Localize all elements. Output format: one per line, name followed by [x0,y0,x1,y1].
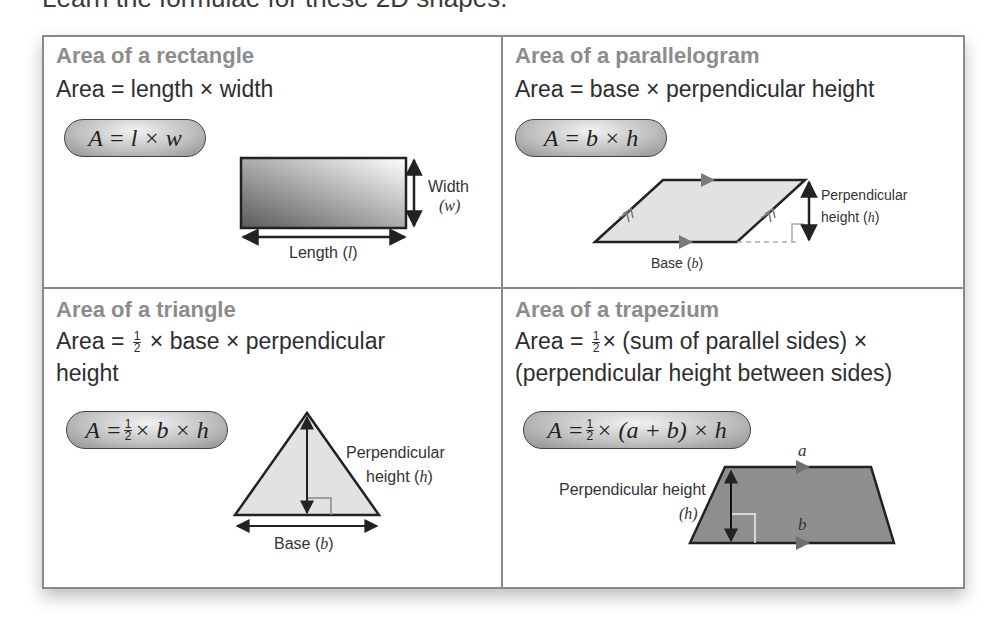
triangle-cell: Area of a triangle Area = 12 × base × pe… [44,289,501,587]
width-variable: (w) [439,197,460,215]
formulae-grid: Area of a rectangle Area = length × widt… [42,35,965,589]
width-label: Width [428,178,469,196]
triangle-diagram [44,289,501,587]
triangle-base-label: Base (b) [274,535,334,553]
trapezium-side-a: a [798,441,807,461]
triangle-height-label-1: Perpendicular [346,444,445,462]
parallelogram-height-label-2: height (h) [821,209,879,226]
triangle-height-label-2: height (h) [366,468,433,486]
trapezium-height-label: Perpendicular height [559,481,706,499]
rectangle-cell: Area of a rectangle Area = length × widt… [44,37,501,287]
length-label: Length (l) [289,244,358,262]
trapezium-height-variable: (h) [679,505,698,523]
parallelogram-base-label: Base (b) [651,255,703,272]
rectangle-diagram [44,37,501,287]
parallelogram-diagram [503,37,963,287]
parallelogram-height-label-1: Perpendicular [821,187,907,203]
trapezium-side-b: b [798,515,807,535]
intro-text: Learn the formulae for these 2D shapes. [42,0,507,14]
parallelogram-cell: Area of a parallelogram Area = base × pe… [503,37,963,287]
trapezium-diagram [503,289,963,587]
trapezium-cell: Area of a trapezium Area = 12× (sum of p… [503,289,963,587]
